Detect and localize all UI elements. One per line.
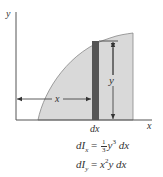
eq2-equals: = <box>91 158 97 170</box>
eq1-lhs: dI <box>76 139 85 151</box>
shaded-area <box>38 33 133 120</box>
differential-strip <box>92 41 99 120</box>
eq1-frac-den: 3 <box>101 147 107 154</box>
eq2-var2: y <box>108 158 113 170</box>
eq1-fraction: 13 <box>101 139 107 154</box>
eq2-lhs: dI <box>76 158 85 170</box>
equation-dIx: dIx = 13y3 dx <box>76 138 129 154</box>
y-dimension-label: y <box>108 74 114 86</box>
eq2-sub: y <box>85 165 88 173</box>
x-axis-label: x <box>146 120 152 131</box>
eq1-power: 3 <box>112 138 116 146</box>
y-axis-label: y <box>5 8 11 19</box>
eq1-sub: x <box>85 146 88 154</box>
eq2-dx: dx <box>116 158 126 170</box>
dx-label: dx <box>90 123 100 134</box>
eq1-dx: dx <box>119 139 129 151</box>
eq1-equals: = <box>91 139 97 151</box>
equation-dIy: dIy = x2y dx <box>76 157 126 173</box>
x-dimension-label: x <box>54 93 60 104</box>
